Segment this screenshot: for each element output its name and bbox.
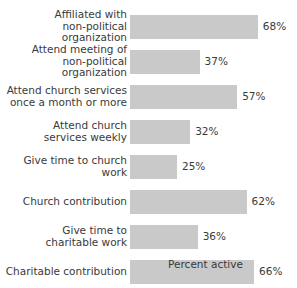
bar-row: Give time to church work25%: [0, 149, 297, 184]
bar-track: 37%: [130, 44, 297, 79]
bar-value-label: 25%: [177, 161, 205, 173]
bar-value-label: 68%: [258, 21, 286, 33]
bar: [130, 155, 177, 179]
bar-track: 62%: [130, 184, 297, 219]
bar: [130, 225, 198, 249]
bar-track: 68%: [130, 9, 297, 44]
bar-value-label: 36%: [198, 231, 226, 243]
bar-value-label: 32%: [190, 126, 218, 138]
bar-track: 36%: [130, 219, 297, 254]
bar-category-label: Attend church services once a month or m…: [0, 85, 130, 108]
bar-value-label: 62%: [247, 196, 275, 208]
bar-row: Attend church services weekly32%: [0, 114, 297, 149]
x-axis-label: Percent active: [133, 258, 278, 270]
bar-category-label: Give time to charitable work: [0, 225, 130, 248]
bar: [130, 15, 258, 39]
bar-track: 57%: [130, 79, 297, 114]
bar-row: Give time to charitable work36%: [0, 219, 297, 254]
bar-row: Affiliated with non-political organizati…: [0, 9, 297, 44]
bar-category-label: Affiliated with non-political organizati…: [0, 9, 130, 44]
bar-row: Attend meeting of non-political organiza…: [0, 44, 297, 79]
bar: [130, 50, 200, 74]
bar-category-label: Church contribution: [0, 196, 130, 208]
bar-category-label: Attend meeting of non-political organiza…: [0, 44, 130, 79]
bar-rows: Affiliated with non-political organizati…: [0, 9, 297, 288]
bar-track: 32%: [130, 114, 297, 149]
bar-row: Church contribution62%: [0, 184, 297, 219]
bar-row: Attend church services once a month or m…: [0, 79, 297, 114]
bar: [130, 120, 190, 144]
bar: [130, 190, 247, 214]
bar-value-label: 37%: [200, 56, 228, 68]
bar-track: 25%: [130, 149, 297, 184]
bar-category-label: Charitable contribution: [0, 266, 130, 278]
bar-category-label: Attend church services weekly: [0, 120, 130, 143]
bar-value-label: 57%: [237, 91, 265, 103]
bar-category-label: Give time to church work: [0, 155, 130, 178]
bar: [130, 85, 237, 109]
